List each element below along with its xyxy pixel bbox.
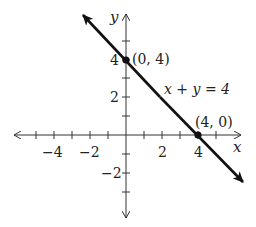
y-tick-label-neg2: −2 — [101, 165, 122, 181]
y-tick-label-4: 4 — [110, 52, 119, 68]
y-axis — [122, 14, 130, 218]
point-0-4-label: (0, 4) — [132, 51, 170, 67]
point-0-4 — [122, 56, 129, 63]
line-x-plus-y-eq-4-lower — [160, 97, 243, 182]
coordinate-plane: y x (0, 4) (4, 0) x + y = 4 −4 −2 2 4 4 … — [0, 0, 256, 227]
x-tick-label-neg2: −2 — [79, 144, 100, 160]
point-4-0-label: (4, 0) — [195, 114, 233, 130]
x-tick-label-2: 2 — [158, 144, 167, 160]
x-tick-label-neg4: −4 — [42, 144, 63, 160]
x-axis-label: x — [233, 138, 242, 156]
x-axis — [14, 131, 241, 139]
y-axis-label: y — [109, 8, 119, 26]
equation-label: x + y = 4 — [164, 81, 230, 97]
point-4-0 — [194, 131, 201, 138]
x-tick-label-4: 4 — [194, 144, 203, 160]
y-tick-label-2: 2 — [110, 89, 119, 105]
